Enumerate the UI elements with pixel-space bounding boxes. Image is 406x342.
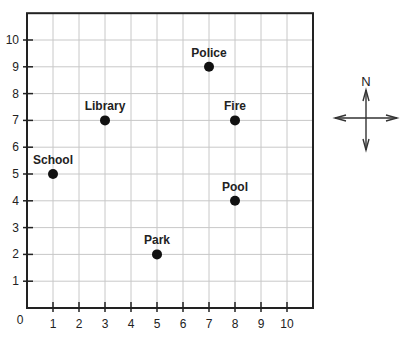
compass-north-label: N [361, 74, 370, 89]
point-marker [230, 115, 240, 125]
point-marker [100, 115, 110, 125]
y-tick-label: 10 [6, 33, 20, 47]
x-tick-label: 6 [180, 317, 187, 331]
compass-rose-icon: N [335, 74, 397, 150]
x-tick-label: 4 [128, 317, 135, 331]
x-tick-label: 9 [258, 317, 265, 331]
point-police: Police [191, 46, 227, 72]
x-tick-label: 1 [50, 317, 57, 331]
point-label: Library [85, 99, 126, 113]
x-tick-label: 2 [76, 317, 83, 331]
point-marker [152, 249, 162, 259]
origin-label: 0 [17, 313, 24, 327]
point-label: Fire [224, 99, 246, 113]
y-tick-label: 8 [12, 87, 19, 101]
y-tick-label: 2 [12, 247, 19, 261]
x-tick-label: 7 [206, 317, 213, 331]
point-library: Library [85, 99, 126, 125]
point-label: School [33, 153, 73, 167]
point-label: Police [191, 46, 227, 60]
axis-ticks: 12345678910123456789100 [6, 33, 294, 331]
point-school: School [33, 153, 73, 179]
y-tick-label: 9 [12, 60, 19, 74]
y-tick-label: 5 [12, 167, 19, 181]
x-tick-label: 5 [154, 317, 161, 331]
y-tick-label: 4 [12, 194, 19, 208]
x-tick-label: 3 [102, 317, 109, 331]
point-label: Park [144, 233, 170, 247]
point-marker [204, 62, 214, 72]
y-tick-label: 1 [12, 274, 19, 288]
coordinate-grid-chart: 12345678910123456789100 PoliceLibraryFir… [0, 0, 406, 342]
point-marker [48, 169, 58, 179]
point-fire: Fire [224, 99, 246, 125]
x-tick-label: 8 [232, 317, 239, 331]
y-tick-label: 7 [12, 113, 19, 127]
point-pool: Pool [222, 180, 248, 206]
point-park: Park [144, 233, 170, 259]
y-tick-label: 6 [12, 140, 19, 154]
y-tick-label: 3 [12, 221, 19, 235]
x-tick-label: 10 [280, 317, 294, 331]
point-marker [230, 196, 240, 206]
point-label: Pool [222, 180, 248, 194]
